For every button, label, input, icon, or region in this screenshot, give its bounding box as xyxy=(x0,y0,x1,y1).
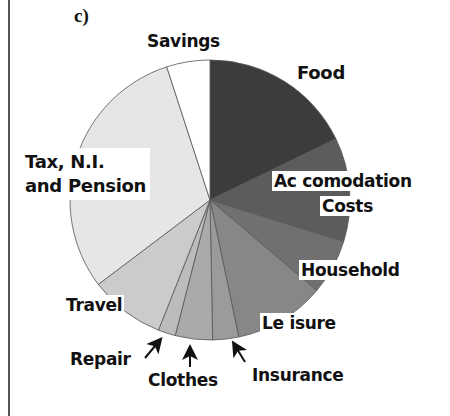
arrow-insurance-icon xyxy=(234,344,245,362)
arrow-repair-icon xyxy=(145,340,160,358)
leader-arrows xyxy=(0,0,450,416)
